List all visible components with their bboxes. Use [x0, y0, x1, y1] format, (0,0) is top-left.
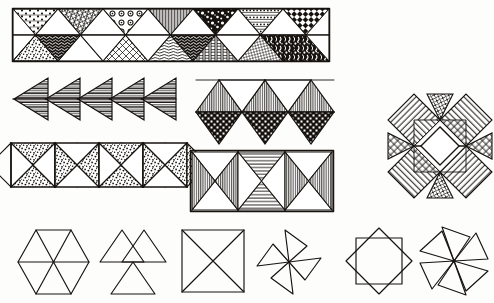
triangle-cell-down [288, 112, 334, 144]
cluster-triangle-left [100, 230, 144, 262]
cluster-triangle-bottom [111, 262, 155, 294]
arrow-upper-triangle [142, 78, 176, 99]
arrow-upper-triangle [78, 78, 112, 99]
edge-diamond-left [0, 143, 11, 187]
pinwheel-blade [442, 227, 470, 261]
pinwheel-blade [420, 261, 454, 289]
arrow-upper-triangle [14, 78, 48, 99]
hourglass-square [99, 143, 143, 187]
arrow-lower-triangle [110, 99, 144, 120]
chevron-arrow [46, 78, 80, 120]
figure-canvas [0, 0, 494, 303]
three-triangle-cluster [100, 230, 166, 294]
arrow-lower-triangle [46, 99, 80, 120]
hourglass-square [143, 143, 187, 187]
chevron-arrow [78, 78, 112, 120]
top-band-upper-triangles [13, 9, 329, 35]
hourglass-square [55, 143, 99, 187]
chevron-arrow [14, 78, 48, 120]
pinwheel-hub [452, 259, 455, 262]
pinwheel-blade [289, 258, 321, 280]
pinwheel-blade [454, 233, 488, 261]
triangle-cell-down [196, 112, 242, 144]
square-inscribed-in-diamond [346, 228, 412, 294]
zigzag-triangle-band [13, 9, 330, 62]
hatched-hourglass-rectangle [191, 151, 334, 212]
eight-point-star-block [388, 94, 492, 198]
pinwheel-blade [257, 244, 289, 266]
triangle-cell-down [242, 112, 288, 144]
pinwheel-blade [285, 230, 307, 262]
hourglass-square [11, 143, 55, 187]
chevron-arrow [110, 78, 144, 120]
square-diagonals [182, 230, 244, 292]
stippled-hourglass-square-band [0, 143, 209, 187]
triangle-strip-vertical-and-check [196, 80, 334, 144]
pinwheel-blade [271, 262, 293, 294]
chevron-arrow [142, 78, 176, 120]
pattern-illustration [0, 0, 494, 303]
six-blade-pinwheel [420, 227, 488, 295]
four-blade-pinwheel [257, 230, 321, 294]
chevron-arrow-row [14, 78, 176, 120]
hexagon-divisions [18, 230, 89, 294]
pinwheel-blade [438, 261, 466, 295]
arrow-lower-triangle [78, 99, 112, 120]
arrow-lower-triangle [142, 99, 176, 120]
arrow-upper-triangle [110, 78, 144, 99]
arrow-lower-triangle [14, 99, 48, 120]
cluster-triangle-right [122, 230, 166, 262]
square-with-diagonals [182, 230, 244, 292]
top-band-lower-triangles [13, 35, 329, 61]
arrow-upper-triangle [46, 78, 80, 99]
hexagon-six-triangles [18, 230, 89, 294]
